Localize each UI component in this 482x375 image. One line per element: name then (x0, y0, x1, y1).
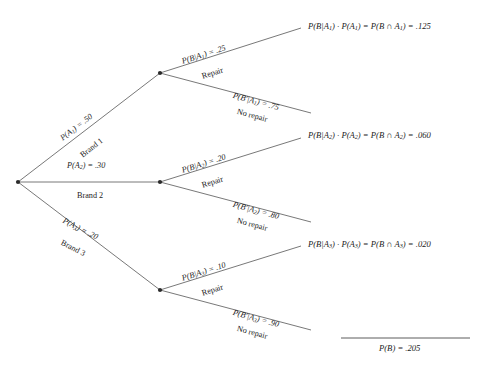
result-a1: P(B|A1) · P(A1) = P(B ∩ A1) = .125 (308, 22, 431, 32)
probability-tree-figure: P(A1) = .50 Brand 1 P(B|A1) = .25 Repair… (0, 0, 482, 375)
edge-a3-repair (160, 246, 301, 290)
result-a2: P(B|A2) · P(A2) = P(B ∩ A2) = .060 (308, 131, 431, 141)
node-a2 (158, 180, 162, 184)
label-a2-brand: Brand 2 (77, 192, 103, 200)
edge-a1-repair (160, 28, 301, 73)
result-a3: P(B|A3) · P(A3) = P(B ∩ A3) = .020 (308, 240, 431, 250)
label-a2-prior: P(A2) = .30 (67, 162, 105, 171)
edge-a2-repair (160, 138, 301, 182)
node-a1 (158, 71, 162, 75)
node-root (16, 180, 20, 184)
total-probability-label: P(B) = .205 (379, 344, 420, 353)
node-a3 (158, 288, 162, 292)
